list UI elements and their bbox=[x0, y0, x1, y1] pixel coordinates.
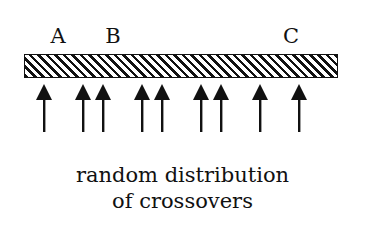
marker-label-c: C bbox=[283, 26, 299, 47]
caption-line-1: random distribution bbox=[0, 162, 365, 188]
crossover-arrow-icon bbox=[35, 84, 53, 132]
caption-line-2: of crossovers bbox=[0, 188, 365, 214]
marker-label-b: B bbox=[105, 26, 120, 47]
crossover-arrow-icon bbox=[290, 84, 308, 132]
crossover-arrow-icon bbox=[251, 84, 269, 132]
crossover-arrow-icon bbox=[192, 84, 210, 132]
crossover-arrow-icon bbox=[94, 84, 112, 132]
chromosome-bar bbox=[24, 54, 338, 78]
crossover-arrow-icon bbox=[133, 84, 151, 132]
crossover-arrow-icon bbox=[74, 84, 92, 132]
marker-label-a: A bbox=[50, 26, 65, 47]
crossover-arrow-icon bbox=[153, 84, 171, 132]
crossover-arrow-icon bbox=[212, 84, 230, 132]
